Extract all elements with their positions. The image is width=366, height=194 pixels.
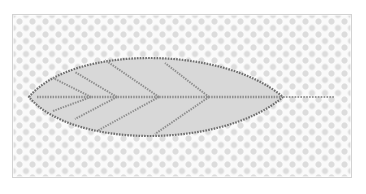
image-preview-panel[interactable] (12, 14, 352, 178)
leaf-icon[interactable] (13, 15, 352, 178)
page-root (0, 0, 366, 194)
